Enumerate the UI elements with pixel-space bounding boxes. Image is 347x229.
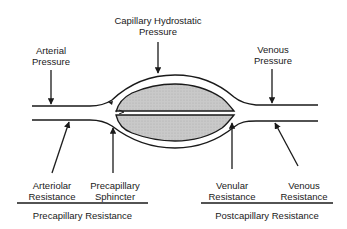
capillary-lower-fill	[116, 115, 234, 141]
label-line: Resistance	[22, 191, 82, 202]
label-line: Resistance	[202, 191, 262, 202]
capillary-upper-fill	[116, 84, 234, 112]
precapillary-resistance-label: Precapillary Resistance	[17, 210, 148, 221]
venous-resistance-label: Venous Resistance	[274, 180, 334, 202]
label-line: Arterial	[26, 45, 76, 56]
label-line: Precapillary	[85, 180, 145, 191]
label-line: Venous	[274, 180, 334, 191]
label-line: Sphincter	[85, 191, 145, 202]
postcapillary-resistance-label: Postcapillary Resistance	[201, 210, 333, 221]
label-line: Resistance	[274, 191, 334, 202]
capillary-hydrostatic-pressure-label: Capillary Hydrostatic Pressure	[103, 15, 213, 37]
label-line: Pressure	[103, 26, 213, 37]
label-line: Venular	[202, 180, 262, 191]
capillary-diagram: Arterial Pressure Capillary Hydrostatic …	[0, 0, 347, 229]
venular-resistance-label: Venular Resistance	[202, 180, 262, 202]
venous-pressure-label: Venous Pressure	[248, 44, 298, 66]
label-line: Arteriolar	[22, 180, 82, 191]
arteriolar-resistance-arrow	[52, 122, 69, 173]
label-line: Venous	[248, 44, 298, 55]
precapillary-sphincter-label: Precapillary Sphincter	[85, 180, 145, 202]
label-line: Capillary Hydrostatic	[103, 15, 213, 26]
label-line: Pressure	[248, 55, 298, 66]
arteriolar-resistance-label: Arteriolar Resistance	[22, 180, 82, 202]
arterial-pressure-label: Arterial Pressure	[26, 45, 76, 67]
venous-resistance-arrow	[275, 123, 298, 166]
label-line: Pressure	[26, 56, 76, 67]
